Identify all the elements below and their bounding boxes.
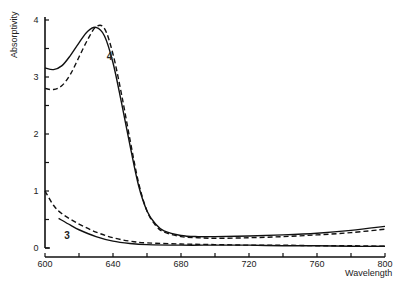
x-tick-label: 600: [37, 259, 52, 269]
curve-4-dashed-: [45, 25, 385, 238]
x-axis-title: Wavelength: [345, 268, 392, 278]
curve-4-solid-: [45, 27, 385, 236]
y-tick-label: 0: [33, 243, 38, 253]
curve-label-3: 3: [64, 230, 70, 241]
y-tick-label: 4: [33, 15, 38, 25]
x-tick-label: 680: [173, 259, 188, 269]
absorptivity-chart: 01234600640680720760800 43 Absorptivity …: [0, 0, 403, 286]
labels: 43: [64, 51, 113, 242]
x-tick-label: 720: [241, 259, 256, 269]
x-tick-label: 760: [309, 259, 324, 269]
y-axis-title: Absorptivity: [9, 11, 19, 58]
y-tick-label: 3: [33, 72, 38, 82]
x-tick-label: 640: [105, 259, 120, 269]
curves: [45, 25, 385, 246]
curve-label-4: 4: [107, 51, 113, 62]
y-tick-label: 1: [33, 186, 38, 196]
y-tick-label: 2: [33, 129, 38, 139]
